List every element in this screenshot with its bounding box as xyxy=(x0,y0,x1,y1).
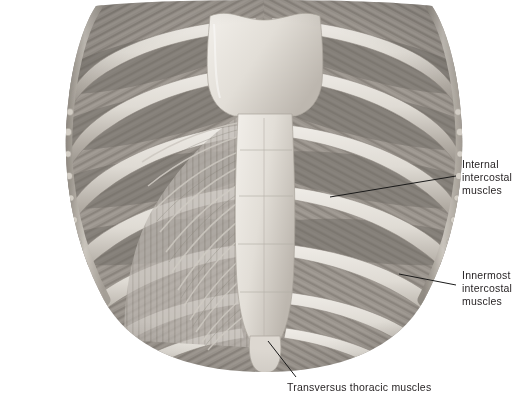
label-innermost-intercostal-muscles: Innermost intercostal muscles xyxy=(462,269,512,308)
label-transversus-thoracic-muscles: Transversus thoracic muscles xyxy=(287,381,431,394)
label-internal-intercostal-muscles: Internal intercostal muscles xyxy=(462,158,512,197)
thoracic-wall-illustration xyxy=(0,0,528,412)
